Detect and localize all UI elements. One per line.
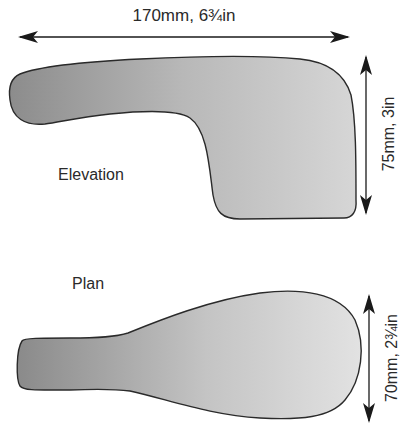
elevation-shape xyxy=(9,56,356,219)
elevation-height-label: 75mm, 3in xyxy=(380,97,397,172)
plan-label: Plan xyxy=(72,275,104,292)
plan-shape xyxy=(17,291,361,418)
plan-width-label: 70mm, 2¾in xyxy=(383,314,400,402)
elevation-label: Elevation xyxy=(58,166,124,183)
width-dimension-label: 170mm, 6¾in xyxy=(133,6,236,25)
shape-diagram: 170mm, 6¾in Elevation 75mm, 3in Plan 70m… xyxy=(0,0,406,430)
